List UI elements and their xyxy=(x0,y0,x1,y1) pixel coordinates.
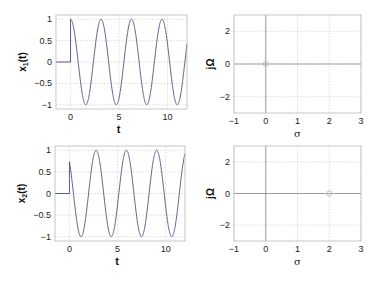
x-tick-label: 2 xyxy=(327,116,332,126)
y-axis-label: x1(t) xyxy=(17,52,29,71)
x-tick-label: 1 xyxy=(295,116,300,126)
x-axis-label: t xyxy=(115,255,119,267)
x-axis-label: σ xyxy=(294,256,301,267)
y-axis-label: jΩ xyxy=(205,59,216,71)
x-tick-label: 0 xyxy=(68,112,73,122)
x-tick-label: −1 xyxy=(229,116,239,126)
x-tick-label: 0 xyxy=(263,116,268,126)
x-tick-label: 5 xyxy=(115,244,120,254)
y-tick-label: 0 xyxy=(47,57,52,67)
y-tick-label: 1 xyxy=(46,145,51,155)
x-tick-label: 3 xyxy=(358,116,363,126)
x-tick-label: 10 xyxy=(161,244,171,254)
y-axis-label: x2(t) xyxy=(16,184,28,203)
y-tick-label: 2 xyxy=(225,157,230,167)
y-tick-label: 2 xyxy=(225,26,230,36)
y-tick-label: 1 xyxy=(47,14,52,24)
x-tick-label: 10 xyxy=(163,112,173,122)
plot-x2-time: 0510−1−0.500.51tx2(t) xyxy=(16,145,185,267)
x-tick-label: −1 xyxy=(229,244,239,254)
y-tick-label: −2 xyxy=(220,92,230,102)
plot-s2-splane: −10123−202σjΩ xyxy=(205,146,364,267)
y-tick-label: −1 xyxy=(42,100,52,110)
y-tick-label: −0.5 xyxy=(34,78,52,88)
y-tick-label: 0 xyxy=(225,189,230,199)
y-tick-label: 0 xyxy=(225,59,230,69)
x-tick-label: 0 xyxy=(263,244,268,254)
x-tick-label: 1 xyxy=(295,244,300,254)
x-tick-label: 3 xyxy=(358,244,363,254)
y-axis-label: jΩ xyxy=(205,188,216,200)
plot-s1-splane: −10123−202σjΩ xyxy=(205,15,364,139)
x-tick-label: 2 xyxy=(327,244,332,254)
figure-canvas: 0510−1−0.500.51tx1(t) −10123−202σjΩ 0510… xyxy=(0,0,382,284)
y-tick-label: −2 xyxy=(220,220,230,230)
x-tick-label: 5 xyxy=(117,112,122,122)
plot-x1-time: 0510−1−0.500.51tx1(t) xyxy=(17,14,187,135)
y-tick-label: 0.5 xyxy=(39,36,52,46)
x-axis-label: t xyxy=(117,123,121,135)
x-tick-label: 0 xyxy=(67,244,72,254)
x-axis-label: σ xyxy=(294,128,301,139)
y-tick-label: −0.5 xyxy=(33,210,51,220)
y-tick-label: 0.5 xyxy=(38,167,51,177)
y-tick-label: −1 xyxy=(41,232,51,242)
y-tick-label: 0 xyxy=(46,189,51,199)
